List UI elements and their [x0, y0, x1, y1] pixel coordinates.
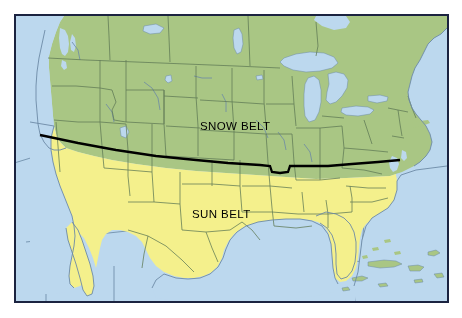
- map-frame: SNOW BELT SUN BELT: [14, 14, 449, 303]
- snow-belt-sun-belt-map: SNOW BELT SUN BELT: [0, 0, 462, 318]
- map-canvas: [16, 16, 447, 301]
